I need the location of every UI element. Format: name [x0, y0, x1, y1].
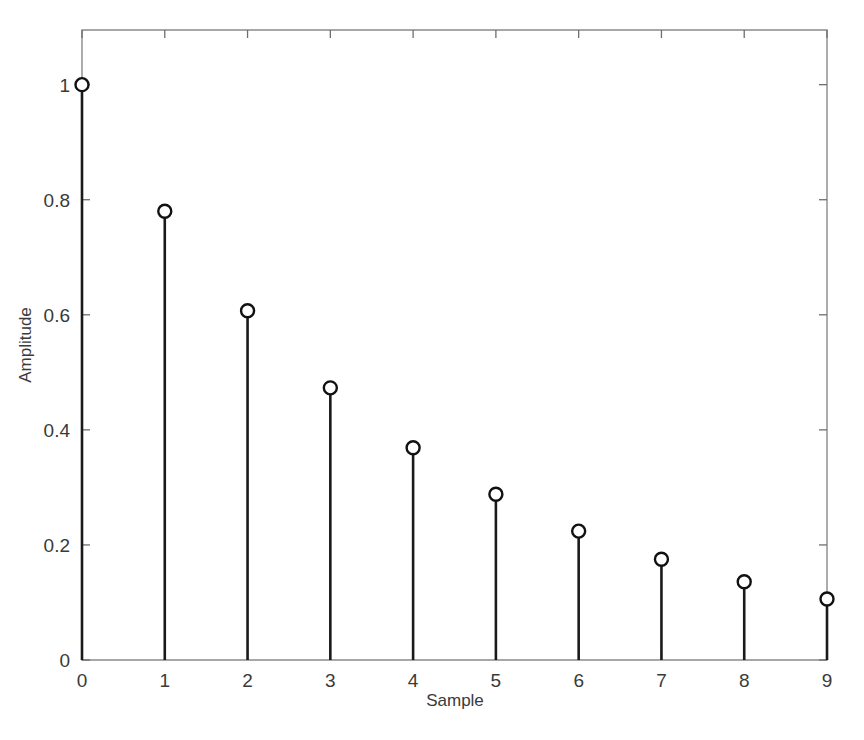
x-tick-label: 3	[325, 670, 336, 691]
stem-marker	[407, 441, 420, 454]
stem-marker	[572, 525, 585, 538]
x-tick-label: 9	[822, 670, 833, 691]
y-axis-title: Amplitude	[16, 307, 35, 383]
figure-canvas: 00.20.40.60.81 0123456789 Sample Amplitu…	[0, 0, 864, 740]
tick-marks-group	[82, 30, 827, 660]
stem-marker	[76, 78, 89, 91]
x-tick-label: 0	[77, 670, 88, 691]
stem-marker	[158, 205, 171, 218]
x-axis-title: Sample	[426, 691, 484, 710]
y-tick-label: 0.8	[44, 190, 70, 211]
stem-plot: 00.20.40.60.81 0123456789 Sample Amplitu…	[0, 0, 864, 740]
x-tick-label: 7	[656, 670, 667, 691]
x-tick-label: 8	[739, 670, 750, 691]
stem-marker	[738, 575, 751, 588]
stem-marker	[489, 488, 502, 501]
y-tick-label: 0.6	[44, 305, 70, 326]
y-tick-labels: 00.20.40.60.81	[44, 75, 71, 671]
stem-series	[76, 78, 834, 660]
stem-marker	[655, 553, 668, 566]
stem-marker	[821, 593, 834, 606]
y-tick-label: 0.2	[44, 535, 70, 556]
y-tick-label: 0	[59, 650, 70, 671]
stem-marker	[241, 304, 254, 317]
x-tick-label: 2	[242, 670, 253, 691]
axes-box	[82, 30, 827, 660]
y-tick-label: 0.4	[44, 420, 71, 441]
x-tick-label: 5	[491, 670, 502, 691]
x-tick-label: 6	[573, 670, 584, 691]
x-tick-label: 1	[159, 670, 170, 691]
stem-marker	[324, 381, 337, 394]
axes-frame	[82, 30, 827, 660]
x-tick-label: 4	[408, 670, 419, 691]
y-tick-label: 1	[59, 75, 70, 96]
x-tick-labels: 0123456789	[77, 670, 833, 691]
